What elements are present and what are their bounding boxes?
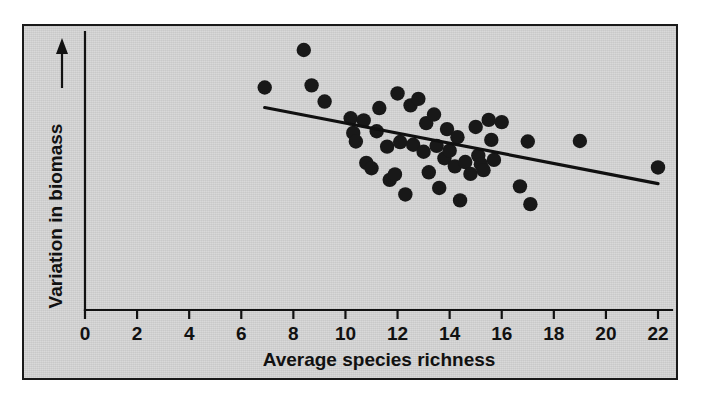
- data-point: [476, 163, 490, 177]
- x-tick-label-14: 14: [439, 323, 461, 344]
- data-point: [487, 153, 501, 167]
- chart-plate: Variation in biomass 0246810121416182022…: [22, 24, 678, 380]
- data-points: [258, 43, 666, 212]
- data-point: [390, 86, 404, 100]
- y-axis-arrow: [56, 38, 68, 88]
- scatter-plot: Variation in biomass 0246810121416182022…: [24, 26, 676, 378]
- data-point: [513, 179, 527, 193]
- data-point: [521, 134, 535, 148]
- data-point: [380, 139, 394, 153]
- x-tick-label-12: 12: [387, 323, 408, 344]
- data-point: [297, 43, 311, 57]
- x-tick-label-22: 22: [647, 323, 668, 344]
- figure-root: Variation in biomass 0246810121416182022…: [0, 0, 701, 404]
- data-point: [258, 80, 272, 94]
- x-axis-title: Average species richness: [263, 349, 496, 370]
- data-point: [427, 107, 441, 121]
- data-point: [453, 193, 467, 207]
- data-point: [422, 165, 436, 179]
- x-tick-label-4: 4: [184, 323, 195, 344]
- y-axis-title: Variation in biomass: [45, 124, 66, 309]
- x-tick-label-6: 6: [236, 323, 247, 344]
- data-point: [364, 161, 378, 175]
- x-tick-label-16: 16: [491, 323, 512, 344]
- x-tick-label-8: 8: [288, 323, 299, 344]
- data-point: [349, 134, 363, 148]
- data-point: [482, 113, 496, 127]
- data-point: [651, 160, 665, 174]
- x-tick-label-10: 10: [335, 323, 356, 344]
- data-point: [393, 135, 407, 149]
- data-point: [523, 197, 537, 211]
- data-point: [416, 145, 430, 159]
- x-tick-label-0: 0: [80, 323, 91, 344]
- data-point: [304, 78, 318, 92]
- x-tick-label-2: 2: [132, 323, 143, 344]
- x-tick-label-20: 20: [595, 323, 616, 344]
- data-point: [398, 187, 412, 201]
- data-point: [495, 115, 509, 129]
- data-point: [432, 181, 446, 195]
- x-tick-label-18: 18: [543, 323, 564, 344]
- data-point: [484, 133, 498, 147]
- data-point: [573, 134, 587, 148]
- data-point: [411, 92, 425, 106]
- data-point: [317, 94, 331, 108]
- data-point: [372, 101, 386, 115]
- x-axis-tick-labels: 0246810121416182022: [80, 323, 669, 344]
- x-axis-ticks: [85, 310, 658, 319]
- data-point: [388, 167, 402, 181]
- trend-line: [265, 108, 658, 184]
- data-point: [468, 120, 482, 134]
